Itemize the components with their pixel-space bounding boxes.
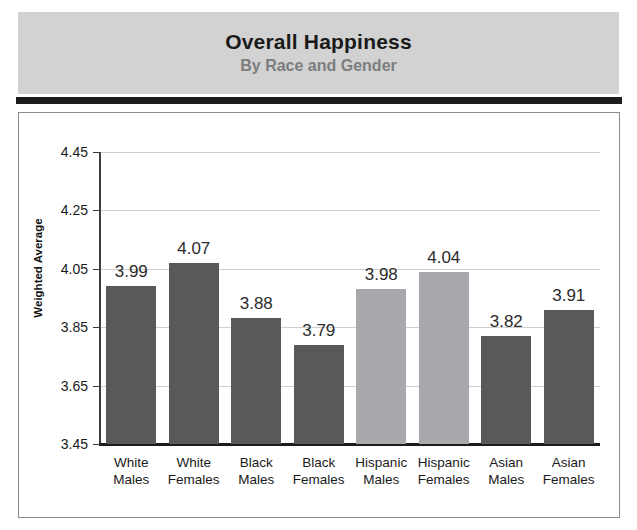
y-axis-tick <box>93 210 101 211</box>
y-axis-tick-label: 4.05 <box>42 261 88 277</box>
bar[interactable] <box>106 286 156 444</box>
header-divider-rule <box>16 97 622 104</box>
y-axis-tick-label: 4.25 <box>42 202 88 218</box>
bar-value-label: 4.04 <box>409 248 479 268</box>
y-axis-tick <box>93 444 101 445</box>
y-axis-tick-label: 3.85 <box>42 319 88 335</box>
y-axis-tick <box>93 386 101 387</box>
y-axis-tick-label: 3.45 <box>42 436 88 452</box>
y-axis-tick-label: 3.65 <box>42 378 88 394</box>
bar-value-label: 3.99 <box>96 262 166 282</box>
bar[interactable] <box>169 263 219 444</box>
y-axis-tick <box>93 327 101 328</box>
bar[interactable] <box>481 336 531 444</box>
y-axis-tick-label: 4.45 <box>42 144 88 160</box>
chart-header-band: Overall Happiness By Race and Gender <box>18 12 619 94</box>
bar[interactable] <box>231 318 281 444</box>
bar-value-label: 3.79 <box>284 321 354 341</box>
bar-value-label: 3.98 <box>346 265 416 285</box>
y-axis-title: Weighted Average <box>32 193 44 343</box>
page-title: Overall Happiness <box>225 30 412 54</box>
plot-area: 3.994.073.883.793.984.043.823.91 <box>100 152 600 444</box>
bar-value-label: 3.88 <box>221 294 291 314</box>
y-axis-tick <box>93 152 101 153</box>
y-axis-tick-labels: 4.454.254.053.853.653.45 <box>42 0 88 530</box>
bar-value-label: 4.07 <box>159 239 229 259</box>
bar[interactable] <box>356 289 406 444</box>
bar-value-label: 3.82 <box>471 312 541 332</box>
bar[interactable] <box>419 272 469 444</box>
gridline <box>100 152 600 153</box>
bar[interactable] <box>294 345 344 444</box>
gridline <box>100 210 600 211</box>
bar[interactable] <box>544 310 594 444</box>
page-subtitle: By Race and Gender <box>240 56 397 76</box>
y-axis-tick <box>93 269 101 270</box>
bar-value-label: 3.91 <box>534 286 604 306</box>
x-axis-category-label: AsianFemales <box>530 455 609 489</box>
